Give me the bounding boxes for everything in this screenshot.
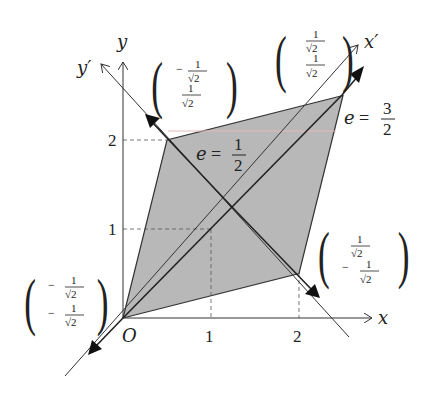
bottom-numerator: 1	[71, 302, 77, 314]
y-tick-2: 2	[108, 131, 117, 150]
vector-lower-left: ( − 1 √2 − 1 √2 )	[24, 266, 108, 337]
vector-upper-right: ( 1 √2 1 √2 )	[275, 23, 354, 94]
bottom-numerator: 1	[366, 258, 372, 270]
right-paren: )	[226, 49, 238, 120]
equals-sign: =	[211, 144, 221, 164]
top-numerator: 1	[357, 233, 363, 245]
vector-upper-left: ( − 1 √2 1 √2 )	[151, 49, 238, 120]
bottom-denominator: √2	[360, 273, 372, 285]
bottom-denominator: √2	[65, 316, 77, 328]
bottom-numerator: 1	[188, 82, 194, 94]
top-numerator: 1	[71, 274, 77, 286]
y-tick-1: 1	[108, 220, 117, 239]
left-paren: (	[275, 23, 287, 94]
top-sign: −	[48, 278, 55, 292]
left-paren: (	[24, 266, 36, 337]
eigenvector-diagram: y x x′ y′ O 1 2 1 2 e = 1 2 e = 3 2 ( 1 …	[0, 0, 422, 394]
bottom-sign: −	[48, 306, 55, 320]
x-tick-2: 2	[293, 327, 302, 346]
y-axis-label: y	[116, 31, 128, 52]
fraction-numerator: 1	[234, 135, 243, 154]
e-symbol: e	[344, 107, 355, 128]
y-prime-label: y′	[76, 57, 91, 78]
bottom-denominator: √2	[182, 97, 194, 109]
left-paren: (	[318, 219, 330, 290]
x-axis-label: x	[378, 307, 388, 328]
top-sign: −	[176, 62, 183, 76]
origin-label: O	[122, 325, 137, 346]
e-symbol: e	[196, 143, 207, 164]
left-paren: (	[151, 49, 163, 120]
eigenvalue-label-three-halves: e = 3 2	[344, 99, 395, 139]
top-denominator: √2	[65, 288, 77, 300]
fraction-denominator: 2	[383, 120, 392, 139]
top-numerator: 1	[195, 58, 201, 70]
fraction-denominator: 2	[234, 156, 243, 175]
fraction-numerator: 3	[383, 99, 392, 118]
right-paren: )	[398, 219, 410, 290]
bottom-denominator: √2	[306, 67, 318, 79]
right-paren: )	[97, 266, 109, 337]
right-paren: )	[342, 23, 354, 94]
equals-sign: =	[359, 108, 369, 128]
top-denominator: √2	[351, 247, 363, 259]
bottom-sign: −	[342, 260, 349, 274]
x-prime-label: x′	[364, 31, 378, 52]
bottom-numerator: 1	[313, 52, 319, 64]
x-tick-1: 1	[205, 327, 214, 346]
top-numerator: 1	[313, 28, 319, 40]
vector-lower-right: ( 1 √2 − 1 √2 )	[318, 219, 409, 290]
